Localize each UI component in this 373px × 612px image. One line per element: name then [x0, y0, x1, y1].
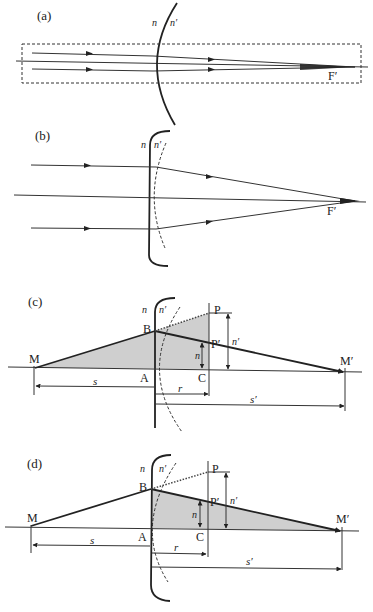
- medium-n-label: n: [142, 304, 147, 315]
- focus-label: F′: [328, 69, 338, 83]
- point-a-label: A: [138, 530, 147, 544]
- point-b-label: B: [143, 322, 151, 336]
- distance-s-prime-label: s′: [246, 555, 253, 567]
- medium-n-label: n: [140, 463, 145, 474]
- point-p-label: P: [212, 462, 219, 476]
- panel-d: (d) n n′ M A B C: [5, 455, 359, 601]
- ray-arrow-icon: [86, 51, 93, 56]
- point-m-prime-label: M′: [340, 354, 354, 368]
- medium-n-prime-label: n′: [159, 304, 167, 315]
- dimension-r: [152, 553, 206, 554]
- optics-figure: (a) n n′ F′ (b) n n′ F′: [0, 0, 373, 612]
- medium-n-prime-label: n′: [159, 463, 167, 474]
- ray-arrow-icon: [86, 67, 93, 72]
- panel-c: (c) n n′ M A B C: [8, 294, 362, 432]
- distance-s-label: s: [90, 534, 94, 546]
- panel-a-label: (a): [37, 8, 51, 23]
- medium-n-label: n: [141, 139, 146, 150]
- panel-a: (a) n n′ F′: [16, 3, 368, 125]
- ray-arrow-icon: [208, 67, 215, 72]
- medium-n-prime-label: n′: [170, 17, 178, 28]
- panel-b: (b) n n′ F′: [14, 128, 366, 266]
- distance-r-label: r: [178, 382, 183, 394]
- distance-s-prime-label: s′: [250, 393, 257, 405]
- height-n-prime-label: n′: [230, 495, 238, 506]
- incident-ray: [31, 489, 151, 526]
- point-p-label: P: [214, 303, 221, 317]
- point-c-label: C: [196, 530, 204, 544]
- optical-axis: [14, 195, 366, 202]
- focus-label: F′: [327, 204, 337, 218]
- ray-arrow-icon: [84, 226, 91, 231]
- ray-upper: [31, 165, 355, 201]
- point-m-label: M: [29, 352, 40, 366]
- point-c-label: C: [198, 371, 206, 385]
- distance-s-label: s: [93, 375, 97, 387]
- panel-c-label: (c): [28, 294, 42, 309]
- point-a-label: A: [140, 371, 149, 385]
- medium-n-label: n: [152, 17, 157, 28]
- height-n-prime-label: n′: [232, 336, 240, 347]
- point-m-prime-label: M′: [336, 512, 350, 526]
- point-p-prime-label: P′: [210, 495, 220, 509]
- distance-r-label: r: [174, 541, 179, 553]
- height-n-label: n: [195, 350, 200, 361]
- ray-arrow-icon: [84, 163, 91, 168]
- focus-convergence: [340, 198, 360, 204]
- height-n-label: n: [192, 509, 197, 520]
- ray-arrow-icon: [208, 57, 215, 62]
- true-spherical-surface: [154, 143, 166, 248]
- extension-line: [151, 472, 208, 489]
- point-b-label: B: [139, 480, 147, 494]
- point-m-label: M: [27, 511, 38, 525]
- panel-d-label: (d): [27, 456, 42, 471]
- dimension-s-prime: [152, 567, 341, 569]
- point-p-prime-label: P′: [211, 337, 221, 351]
- medium-n-prime-label: n′: [154, 139, 162, 150]
- panel-b-label: (b): [35, 128, 50, 143]
- ray-lower: [31, 201, 355, 229]
